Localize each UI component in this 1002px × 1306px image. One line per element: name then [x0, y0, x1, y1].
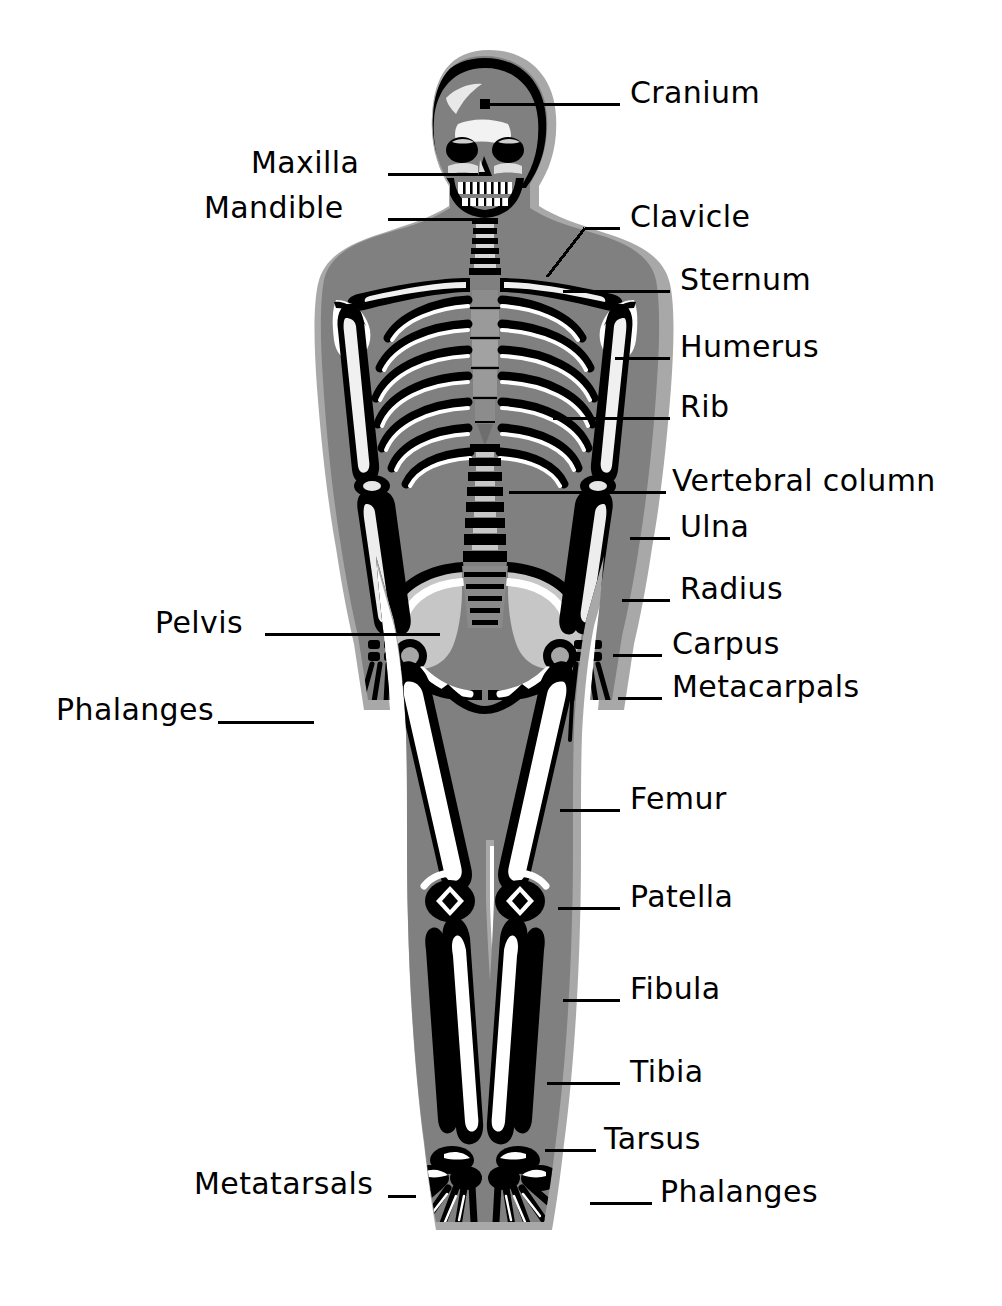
leader-dot-cranium — [480, 99, 490, 109]
label-phalanges-foot: Phalanges — [660, 1177, 818, 1207]
vertebral-column-group — [463, 444, 507, 562]
label-metacarpals: Metacarpals — [672, 672, 860, 702]
label-metatarsals: Metatarsals — [194, 1169, 373, 1199]
label-vertebral-column: Vertebral column — [672, 466, 936, 496]
label-fibula: Fibula — [630, 974, 721, 1004]
label-femur: Femur — [630, 784, 727, 814]
label-maxilla: Maxilla — [251, 148, 359, 178]
label-rib: Rib — [680, 392, 729, 422]
label-tibia: Tibia — [630, 1057, 704, 1087]
leader-dots-layer — [480, 99, 490, 109]
label-ulna: Ulna — [680, 512, 749, 542]
skeleton-figure — [0, 0, 1002, 1306]
label-radius: Radius — [680, 574, 783, 604]
label-phalanges-hand: Phalanges — [56, 695, 214, 725]
label-clavicle: Clavicle — [630, 202, 750, 232]
label-pelvis: Pelvis — [155, 608, 243, 638]
label-patella: Patella — [630, 882, 733, 912]
label-sternum: Sternum — [680, 265, 811, 295]
label-carpus: Carpus — [672, 629, 780, 659]
label-mandible: Mandible — [204, 193, 344, 223]
label-cranium: Cranium — [630, 78, 760, 108]
label-humerus: Humerus — [680, 332, 819, 362]
label-tarsus: Tarsus — [604, 1124, 701, 1154]
skeleton-diagram-canvas: CraniumMaxillaMandibleClavicleSternumHum… — [0, 0, 1002, 1306]
